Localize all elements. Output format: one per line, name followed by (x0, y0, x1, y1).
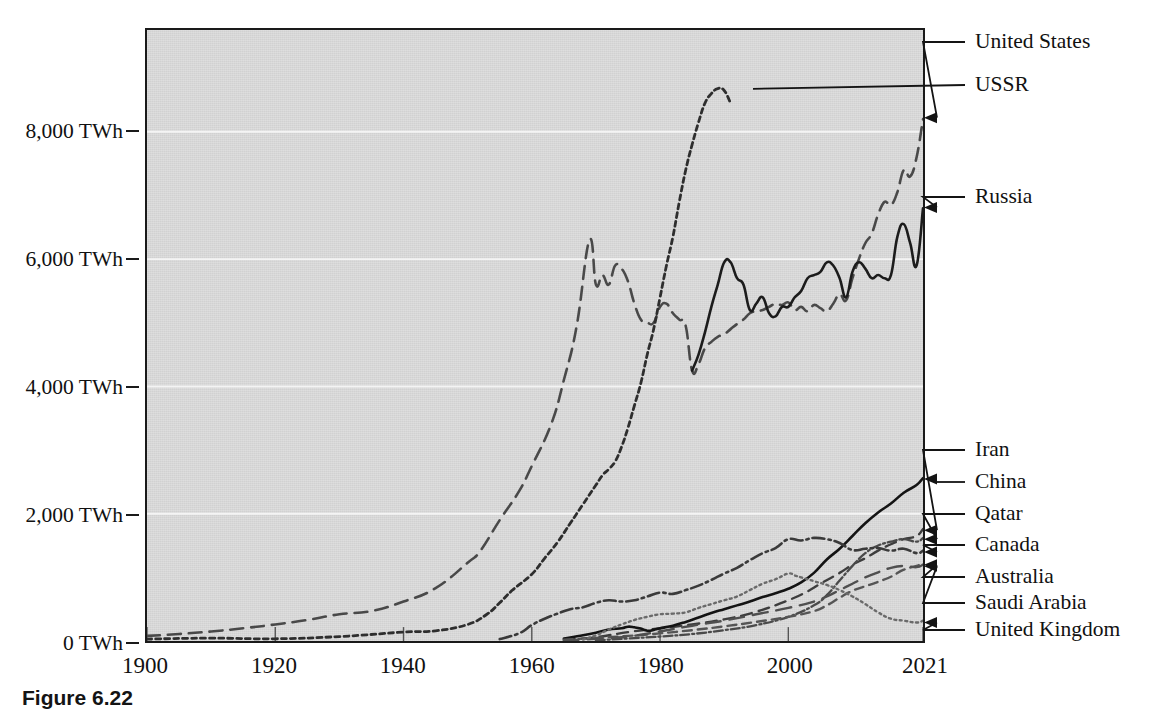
series-label-qatar: Qatar (975, 503, 1023, 525)
y-tick: 4,000 TWh (0, 374, 145, 400)
y-tick-label: 0 TWh (63, 630, 123, 656)
series-label-australia: Australia (975, 566, 1054, 588)
figure-caption: Figure 6.22 (22, 686, 133, 710)
series-line-russia (692, 208, 923, 370)
callout-arrowhead (924, 534, 937, 545)
y-tick: 2,000 TWh (0, 502, 145, 528)
series-label-united-states: United States (975, 31, 1090, 53)
y-tick: 8,000 TWh (0, 118, 145, 144)
series-line-united-states (147, 119, 923, 636)
x-tick-label: 1900 (122, 651, 168, 681)
callout-arrowhead (924, 112, 937, 123)
y-tick-mark (126, 258, 139, 260)
callout-leader-australia (923, 565, 965, 577)
y-tick-mark (126, 386, 139, 388)
series-line-ussr (147, 88, 731, 639)
x-tick-label: 1960 (509, 651, 555, 681)
y-tick-label: 8,000 TWh (25, 118, 123, 144)
series-label-united-kingdom: United Kingdom (975, 619, 1120, 641)
callout-arrowhead (924, 547, 937, 558)
figure-root: 0 TWh2,000 TWh4,000 TWh6,000 TWh8,000 TW… (0, 0, 1149, 710)
x-tick-label: 1980 (638, 651, 684, 681)
callout-leader-saudi-arabia (923, 566, 965, 603)
callout-arrowhead (924, 559, 937, 570)
callout-leader-iran (923, 450, 965, 530)
series-label-china: China (975, 471, 1026, 493)
x-tick-label: 2000 (767, 651, 813, 681)
chart-lines-svg (147, 30, 923, 641)
y-tick-label: 2,000 TWh (25, 502, 123, 528)
callout-arrowhead (924, 561, 937, 572)
callout-leader-qatar (923, 514, 965, 539)
callout-arrowhead (924, 474, 937, 485)
callout-arrowhead (924, 525, 937, 536)
callout-leader-canada (923, 545, 965, 552)
callout-leader-russia (923, 197, 965, 207)
y-tick: 6,000 TWh (0, 246, 145, 272)
x-tick-label: 1940 (380, 651, 426, 681)
x-tick-label: 1920 (251, 651, 297, 681)
y-tick-label: 4,000 TWh (25, 374, 123, 400)
x-tick-label: 2021 (902, 651, 948, 681)
series-label-saudi-arabia: Saudi Arabia (975, 592, 1087, 614)
y-tick-mark (126, 130, 139, 132)
series-label-russia: Russia (975, 186, 1032, 208)
callout-arrowhead (924, 617, 937, 628)
callout-leader-united-kingdom (923, 623, 965, 631)
y-tick-mark (126, 514, 139, 516)
series-label-iran: Iran (975, 439, 1010, 461)
series-label-ussr: USSR (975, 74, 1029, 96)
y-tick-mark (126, 642, 139, 644)
plot-area (145, 28, 925, 643)
y-tick-label: 6,000 TWh (25, 246, 123, 272)
callout-arrowhead (924, 202, 937, 213)
callout-leader-united-states (923, 42, 965, 118)
series-label-canada: Canada (975, 534, 1039, 556)
